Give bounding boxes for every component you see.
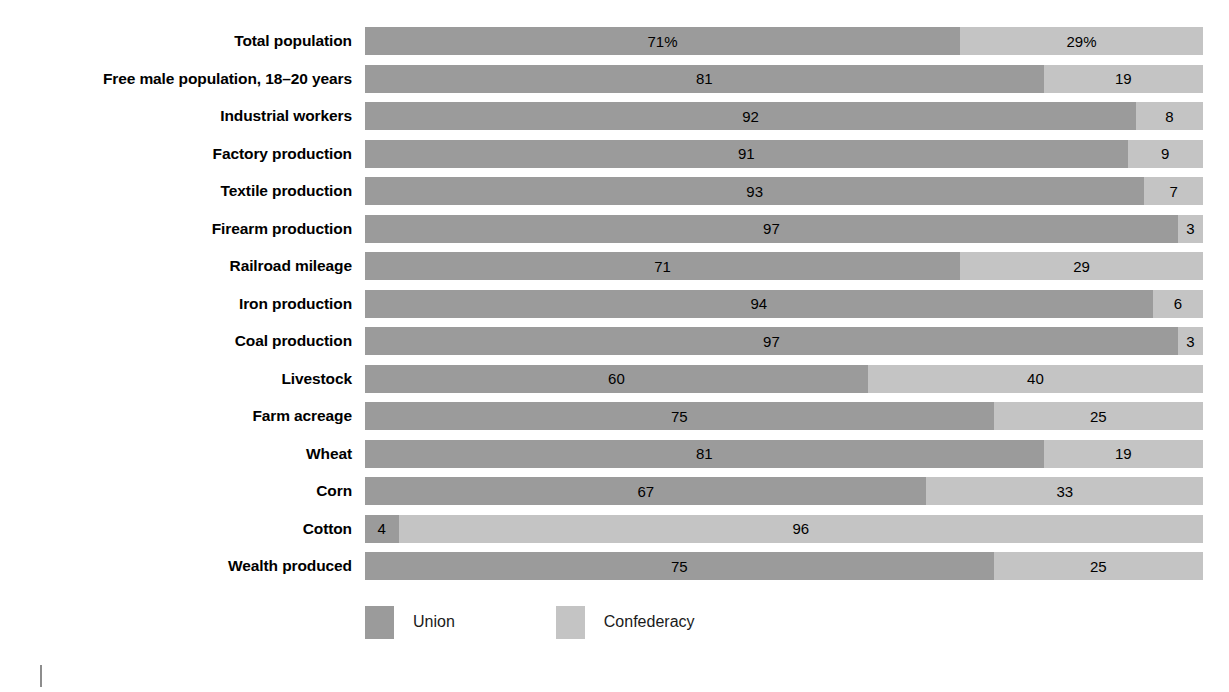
row-bar-track: 8119 [365, 65, 1203, 93]
bar-value-union: 91 [738, 146, 755, 161]
chart-row: Corn6733 [0, 477, 1229, 505]
chart-row: Textile production937 [0, 177, 1229, 205]
chart-row: Livestock6040 [0, 365, 1229, 393]
bar-value-union: 92 [742, 109, 759, 124]
row-bar-track: 946 [365, 290, 1203, 318]
bar-value-union: 4 [378, 521, 386, 536]
bar-segment-union: 75 [365, 402, 994, 430]
bar-segment-union: 94 [365, 290, 1153, 318]
bar-segment-union: 4 [365, 515, 399, 543]
bar-value-confederacy: 29% [1066, 34, 1096, 49]
bar-segment-union: 71% [365, 27, 960, 55]
row-bar-track: 7525 [365, 402, 1203, 430]
bar-segment-confederacy: 19 [1044, 440, 1203, 468]
bar-value-confederacy: 9 [1161, 146, 1169, 161]
bar-segment-union: 97 [365, 327, 1178, 355]
chart-row: Firearm production973 [0, 215, 1229, 243]
bar-value-confederacy: 3 [1186, 334, 1194, 349]
bar-segment-confederacy: 29 [960, 252, 1203, 280]
chart-row: Free male population, 18–20 years8119 [0, 65, 1229, 93]
row-label: Cotton [0, 515, 352, 543]
row-bar-track: 8119 [365, 440, 1203, 468]
bar-value-confederacy: 29 [1073, 259, 1090, 274]
page-corner-tick-mark [40, 665, 42, 687]
bar-segment-union: 81 [365, 440, 1044, 468]
bar-value-confederacy: 96 [792, 521, 809, 536]
bar-value-confederacy: 3 [1186, 221, 1194, 236]
chart-row: Coal production973 [0, 327, 1229, 355]
row-bar-track: 6733 [365, 477, 1203, 505]
legend-swatch-confederacy-icon [556, 606, 585, 639]
row-bar-track: 928 [365, 102, 1203, 130]
row-label: Coal production [0, 327, 352, 355]
chart-row: Factory production919 [0, 140, 1229, 168]
legend-item-union[interactable]: Union [365, 606, 455, 639]
bar-value-confederacy: 6 [1174, 296, 1182, 311]
bar-segment-confederacy: 96 [399, 515, 1203, 543]
row-label: Corn [0, 477, 352, 505]
bar-segment-confederacy: 3 [1178, 215, 1203, 243]
bar-value-union: 81 [696, 446, 713, 461]
bar-segment-confederacy: 25 [994, 402, 1204, 430]
row-bar-track: 7129 [365, 252, 1203, 280]
stacked-bar-chart: Total population71%29%Free male populati… [0, 0, 1229, 692]
chart-row: Total population71%29% [0, 27, 1229, 55]
row-bar-track: 937 [365, 177, 1203, 205]
bar-value-union: 97 [763, 221, 780, 236]
bar-value-union: 71% [647, 34, 677, 49]
row-bar-track: 71%29% [365, 27, 1203, 55]
bar-segment-union: 97 [365, 215, 1178, 243]
bar-segment-union: 81 [365, 65, 1044, 93]
row-bar-track: 973 [365, 215, 1203, 243]
bar-value-union: 60 [608, 371, 625, 386]
chart-rows: Total population71%29%Free male populati… [0, 27, 1229, 590]
chart-row: Wealth produced7525 [0, 552, 1229, 580]
bar-segment-union: 67 [365, 477, 926, 505]
row-label: Railroad mileage [0, 252, 352, 280]
row-bar-track: 973 [365, 327, 1203, 355]
chart-legend: Union Confederacy [365, 605, 695, 639]
bar-value-union: 93 [746, 184, 763, 199]
bar-value-union: 75 [671, 409, 688, 424]
bar-segment-union: 92 [365, 102, 1136, 130]
bar-segment-confederacy: 25 [994, 552, 1204, 580]
bar-segment-union: 60 [365, 365, 868, 393]
bar-value-union: 71 [654, 259, 671, 274]
bar-segment-confederacy: 8 [1136, 102, 1203, 130]
bar-segment-confederacy: 7 [1144, 177, 1203, 205]
row-label: Livestock [0, 365, 352, 393]
chart-row: Farm acreage7525 [0, 402, 1229, 430]
bar-value-union: 67 [637, 484, 654, 499]
bar-value-confederacy: 40 [1027, 371, 1044, 386]
bar-value-confederacy: 19 [1115, 446, 1132, 461]
legend-label-union: Union [413, 613, 455, 631]
row-bar-track: 919 [365, 140, 1203, 168]
chart-row: Cotton496 [0, 515, 1229, 543]
bar-segment-confederacy: 40 [868, 365, 1203, 393]
bar-value-confederacy: 19 [1115, 71, 1132, 86]
bar-value-union: 97 [763, 334, 780, 349]
row-label: Firearm production [0, 215, 352, 243]
bar-segment-union: 91 [365, 140, 1128, 168]
row-bar-track: 6040 [365, 365, 1203, 393]
bar-value-confederacy: 8 [1165, 109, 1173, 124]
bar-value-confederacy: 7 [1169, 184, 1177, 199]
bar-segment-confederacy: 19 [1044, 65, 1203, 93]
bar-segment-union: 71 [365, 252, 960, 280]
row-label: Free male population, 18–20 years [0, 65, 352, 93]
bar-segment-confederacy: 3 [1178, 327, 1203, 355]
row-label: Iron production [0, 290, 352, 318]
legend-item-confederacy[interactable]: Confederacy [556, 606, 695, 639]
row-bar-track: 7525 [365, 552, 1203, 580]
bar-segment-confederacy: 9 [1128, 140, 1203, 168]
row-label: Farm acreage [0, 402, 352, 430]
row-label: Textile production [0, 177, 352, 205]
bar-segment-union: 75 [365, 552, 994, 580]
bar-segment-confederacy: 33 [926, 477, 1203, 505]
row-label: Total population [0, 27, 352, 55]
row-label: Factory production [0, 140, 352, 168]
row-label: Wealth produced [0, 552, 352, 580]
chart-row: Iron production946 [0, 290, 1229, 318]
chart-row: Railroad mileage7129 [0, 252, 1229, 280]
row-label: Wheat [0, 440, 352, 468]
